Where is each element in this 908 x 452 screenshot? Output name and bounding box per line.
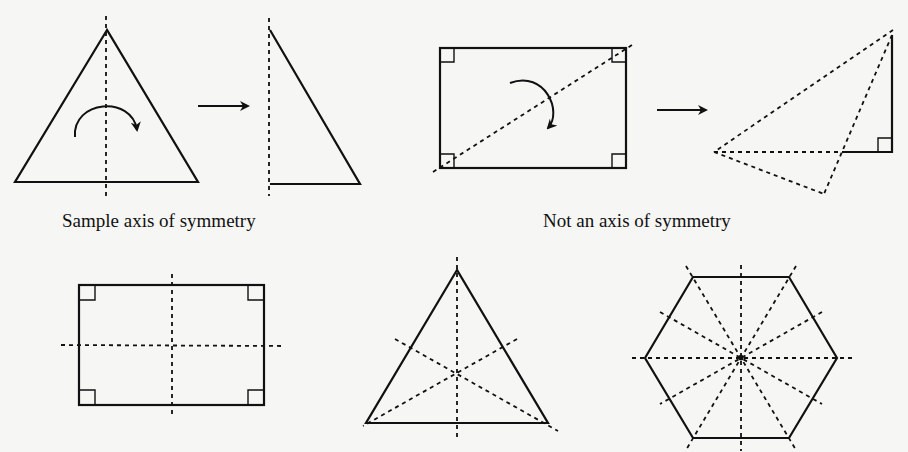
folded-edge-right xyxy=(824,35,892,194)
horizontal-axis-line xyxy=(61,345,283,346)
folded-rectangle-result xyxy=(714,30,893,194)
folded-edge-top xyxy=(714,30,893,152)
caption-not-axis: Not an axis of symmetry xyxy=(543,210,731,232)
half-triangle xyxy=(270,30,360,184)
axis-line xyxy=(363,339,517,426)
isosceles-triangle-fold xyxy=(15,16,198,196)
diagonal-line xyxy=(433,45,632,172)
right-angle-mark xyxy=(878,138,892,152)
caption-sample-axis: Sample axis of symmetry xyxy=(62,210,256,232)
folded-edge-bottom xyxy=(714,152,824,194)
axis-line xyxy=(395,339,558,431)
equilateral-triangle-axes xyxy=(363,257,558,437)
folded-half-triangle xyxy=(269,18,360,196)
fold-arrow-icon xyxy=(510,81,553,128)
center-point xyxy=(739,356,744,361)
rectangle-axes xyxy=(61,274,283,417)
regular-hexagon-axes xyxy=(632,265,852,451)
rectangle-diagonal-fold xyxy=(433,45,632,172)
